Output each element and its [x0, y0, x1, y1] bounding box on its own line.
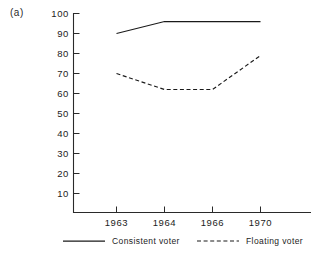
series-line-floating-voter — [117, 56, 261, 90]
x-tick-labels: 1963 1964 1966 1970 — [105, 217, 273, 228]
y-tick-label: 50 — [57, 108, 69, 119]
y-tick-marks — [74, 14, 80, 194]
legend-label-consistent-voter: Consistent voter — [112, 236, 180, 246]
y-tick-label: 90 — [57, 28, 69, 39]
y-tick-label: 60 — [57, 88, 69, 99]
legend-label-floating-voter: Floating voter — [246, 236, 303, 246]
y-tick-label: 40 — [57, 128, 69, 139]
x-tick-label: 1970 — [249, 217, 273, 228]
y-tick-label: 20 — [57, 168, 69, 179]
x-tick-label: 1964 — [153, 217, 177, 228]
x-tick-label: 1966 — [201, 217, 225, 228]
line-chart: 100 90 80 70 60 50 40 30 20 10 1963 1964… — [0, 0, 328, 262]
y-tick-labels: 100 90 80 70 60 50 40 30 20 10 — [51, 8, 69, 199]
x-tick-label: 1963 — [105, 217, 129, 228]
figure-panel-a: (a) 100 90 80 70 60 50 40 30 — [0, 0, 328, 262]
legend: Consistent voter Floating voter — [63, 236, 303, 246]
x-tick-marks — [117, 207, 261, 213]
y-tick-label: 100 — [51, 8, 69, 19]
y-tick-label: 30 — [57, 148, 69, 159]
y-tick-label: 70 — [57, 68, 69, 79]
y-tick-label: 10 — [57, 188, 69, 199]
series-line-consistent-voter — [117, 22, 261, 34]
y-tick-label: 80 — [57, 48, 69, 59]
